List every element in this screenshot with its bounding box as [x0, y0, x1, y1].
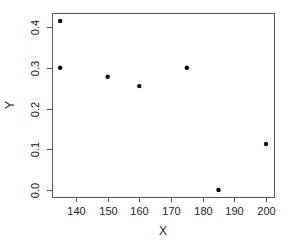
- x-axis: 140150160170180190200: [67, 197, 275, 217]
- y-tick-label: 0.3: [29, 61, 41, 76]
- data-points: [58, 19, 268, 193]
- x-tick-label: 190: [225, 205, 243, 217]
- data-point: [105, 75, 109, 79]
- data-point: [264, 142, 268, 146]
- x-tick-label: 180: [194, 205, 212, 217]
- x-tick-label: 150: [99, 205, 117, 217]
- y-tick-label: 0.0: [29, 183, 41, 198]
- data-point: [216, 188, 220, 192]
- data-point: [58, 66, 62, 70]
- scatter-chart: 140150160170180190200 0.00.10.20.30.4 X …: [0, 0, 291, 248]
- x-tick-label: 200: [257, 205, 275, 217]
- y-axis-title: Y: [3, 101, 17, 109]
- plot-frame: [53, 14, 275, 198]
- y-tick-label: 0.2: [29, 102, 41, 117]
- x-tick-label: 140: [67, 205, 85, 217]
- data-point: [137, 84, 141, 88]
- y-tick-label: 0.4: [29, 20, 41, 35]
- y-tick-label: 0.1: [29, 142, 41, 157]
- y-axis: 0.00.10.20.30.4: [29, 20, 52, 198]
- x-axis-title: X: [159, 224, 167, 238]
- x-tick-label: 160: [130, 205, 148, 217]
- data-point: [185, 66, 189, 70]
- x-tick-label: 170: [162, 205, 180, 217]
- data-point: [58, 19, 62, 23]
